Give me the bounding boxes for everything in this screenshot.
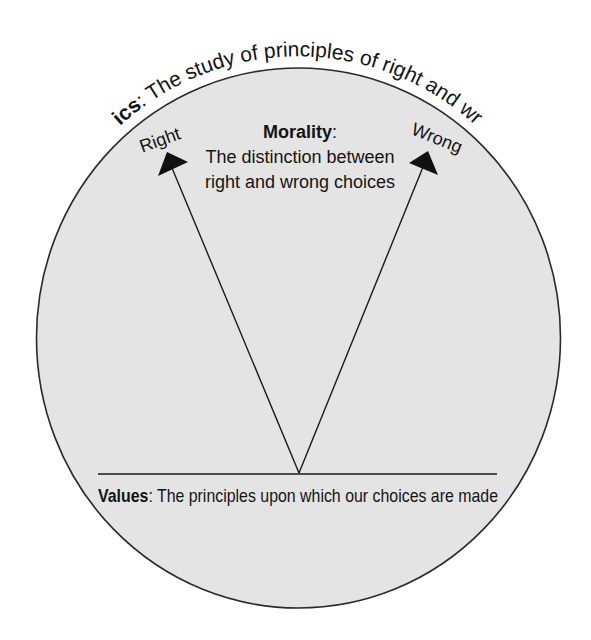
ethics-diagram: Ethics: The study of principles of right… bbox=[0, 0, 591, 640]
morality-heading: Morality: bbox=[263, 122, 337, 142]
morality-heading-bold: Morality bbox=[263, 122, 332, 142]
ethics-title-bold: Ethics bbox=[0, 0, 145, 129]
morality-line2: right and wrong choices bbox=[205, 172, 395, 192]
values-caption: Values: The principles upon which our ch… bbox=[98, 485, 498, 506]
morality-heading-colon: : bbox=[332, 122, 337, 142]
values-caption-bold: Values bbox=[98, 485, 148, 506]
morality-line1: The distinction between bbox=[205, 147, 394, 167]
values-caption-rest: : The principles upon which our choices … bbox=[148, 485, 498, 506]
